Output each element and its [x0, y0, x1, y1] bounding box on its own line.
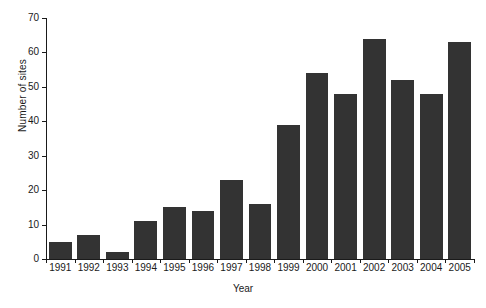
x-tick-label: 1998 [246, 262, 275, 274]
bar[interactable] [277, 125, 300, 259]
bar[interactable] [306, 73, 329, 259]
bar[interactable] [192, 211, 215, 259]
x-tick-label: 1997 [217, 262, 246, 274]
y-tick-label: 40 [28, 116, 39, 126]
x-tick [474, 259, 475, 263]
bar[interactable] [249, 204, 272, 259]
x-tick-label: 2004 [417, 262, 446, 274]
x-tick-label: 2005 [445, 262, 474, 274]
y-axis-title: Number of sites [17, 36, 28, 156]
y-tick-label: 30 [28, 151, 39, 161]
bars-group [46, 18, 474, 259]
bar[interactable] [163, 207, 186, 259]
y-tick-label: 60 [28, 47, 39, 57]
bar[interactable] [49, 242, 72, 259]
x-tick-label: 1992 [75, 262, 104, 274]
x-tick-label: 1999 [274, 262, 303, 274]
x-tick-label: 1991 [46, 262, 75, 274]
bar-chart: Number of sites 010203040506070 19911992… [0, 0, 486, 308]
x-axis-tick-labels: 1991199219931994199519961997199819992000… [46, 262, 474, 278]
x-tick-label: 1993 [103, 262, 132, 274]
x-axis-line [46, 259, 474, 260]
bar[interactable] [448, 42, 471, 259]
x-tick-label: 2001 [331, 262, 360, 274]
bar[interactable] [134, 221, 157, 259]
bar[interactable] [334, 94, 357, 259]
x-tick-label: 1996 [189, 262, 218, 274]
y-tick-label: 0 [33, 254, 39, 264]
bar[interactable] [220, 180, 243, 259]
bar[interactable] [363, 39, 386, 259]
x-tick-label: 1995 [160, 262, 189, 274]
x-tick-label: 2003 [388, 262, 417, 274]
bar[interactable] [420, 94, 443, 259]
y-tick-label: 50 [28, 82, 39, 92]
x-tick-label: 2002 [360, 262, 389, 274]
bar[interactable] [106, 252, 129, 259]
y-tick-label: 10 [28, 220, 39, 230]
bar[interactable] [391, 80, 414, 259]
plot-area: 010203040506070 [46, 18, 474, 259]
x-axis-title: Year [0, 283, 486, 294]
y-tick-label: 70 [28, 13, 39, 23]
bar[interactable] [77, 235, 100, 259]
x-tick-label: 1994 [132, 262, 161, 274]
x-tick-label: 2000 [303, 262, 332, 274]
y-tick-label: 20 [28, 185, 39, 195]
